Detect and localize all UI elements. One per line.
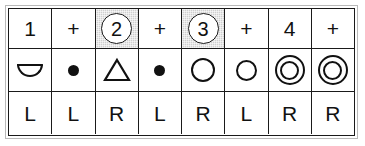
open-circle-icon [182, 49, 224, 91]
hand-indicator-row: L L R L R L R R [9, 92, 354, 134]
hand-label: L [68, 103, 80, 124]
beat-cell: 1 [9, 9, 52, 48]
double-circle-icon [269, 49, 311, 91]
hand-label: R [325, 103, 340, 124]
beat-cell-accented: 2 [96, 9, 139, 48]
symbol-cell [139, 49, 182, 91]
double-circle-icon [312, 49, 354, 91]
symbol-cell [52, 49, 95, 91]
open-circle-icon [225, 49, 267, 91]
symbol-cell [9, 49, 52, 91]
beat-label: 2 [111, 19, 122, 39]
hand-cell: L [139, 92, 182, 134]
hand-cell: R [312, 92, 354, 134]
symbol-cell [312, 49, 354, 91]
filled-dot-icon [52, 49, 94, 91]
beat-cell: + [139, 9, 182, 48]
hand-label: R [109, 103, 124, 124]
hand-label: L [154, 103, 166, 124]
symbol-cell [269, 49, 312, 91]
beat-label: + [154, 18, 166, 39]
beat-cell: + [312, 9, 354, 48]
beat-cell-accented: 3 [182, 9, 225, 48]
stroke-symbol-row [9, 49, 354, 92]
hand-label: R [196, 103, 211, 124]
hand-cell: R [182, 92, 225, 134]
hand-label: L [24, 103, 36, 124]
beat-label: 1 [24, 18, 36, 39]
symbol-cell [225, 49, 268, 91]
beat-count-row: 1 + 2 + 3 + 4 [9, 9, 354, 49]
hand-cell: L [9, 92, 52, 134]
beat-circle-marker: 3 [188, 13, 219, 44]
filled-dot-icon [139, 49, 181, 91]
hand-cell: R [96, 92, 139, 134]
symbol-cell [182, 49, 225, 91]
hand-label: L [241, 103, 253, 124]
beat-cell: 4 [269, 9, 312, 48]
notation-grid: 1 + 2 + 3 + 4 [8, 8, 355, 136]
symbol-cell [96, 49, 139, 91]
semicircle-icon [9, 49, 51, 91]
beat-label: + [327, 18, 339, 39]
hand-cell: L [225, 92, 268, 134]
beat-circle-marker: 2 [101, 13, 132, 44]
rhythm-notation-figure: 1 + 2 + 3 + 4 [0, 0, 365, 146]
beat-cell: + [225, 9, 268, 48]
hand-cell: R [269, 92, 312, 134]
beat-label: 4 [284, 18, 296, 39]
triangle-icon [96, 49, 138, 91]
beat-cell: + [52, 9, 95, 48]
beat-label: + [240, 18, 252, 39]
beat-label: + [67, 18, 79, 39]
hand-label: R [282, 103, 297, 124]
beat-label: 3 [198, 19, 209, 39]
hand-cell: L [52, 92, 95, 134]
